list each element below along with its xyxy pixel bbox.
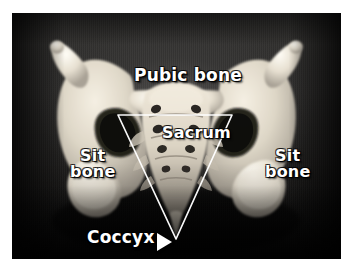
label-coccyx: Coccyx (87, 229, 155, 246)
label-sit-bone-right: Sit bone (265, 148, 311, 181)
label-sit-bone-left: Sit bone (70, 148, 116, 181)
annotation-overlay: Pubic bone Sacrum Sit bone Sit bone Cocc… (12, 13, 341, 259)
label-sacrum: Sacrum (162, 125, 231, 141)
label-pubic-bone: Pubic bone (134, 67, 242, 84)
pelvis-photograph: Pubic bone Sacrum Sit bone Sit bone Cocc… (12, 13, 341, 259)
anatomy-figure: Pubic bone Sacrum Sit bone Sit bone Cocc… (0, 0, 352, 274)
triangle-right-icon (157, 233, 172, 251)
